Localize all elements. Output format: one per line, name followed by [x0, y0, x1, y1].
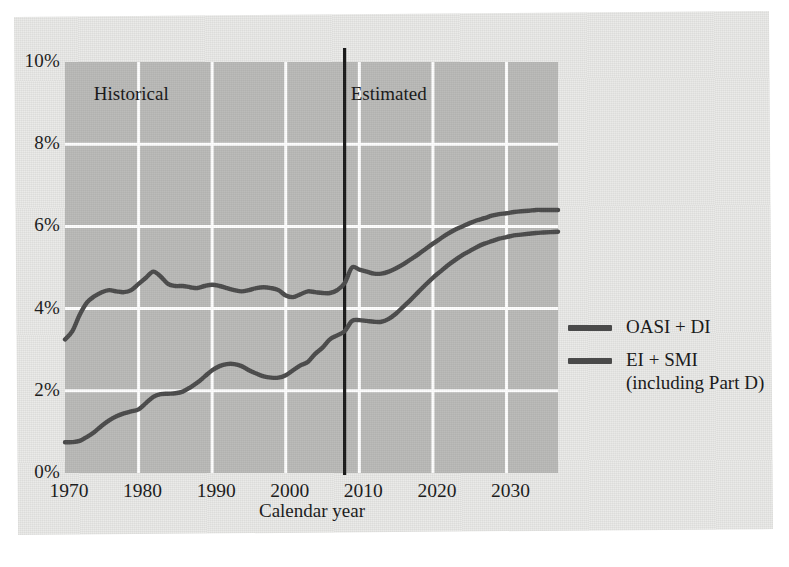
x-axis-tick-1990: 1990 — [197, 480, 236, 502]
legend-item-ei-smi: EI + SMI (including Part D) — [568, 349, 783, 394]
x-axis-tick-1970: 1970 — [50, 480, 89, 502]
x-axis-tick-2000: 2000 — [270, 480, 309, 502]
x-axis-tick-2030: 2030 — [491, 480, 530, 502]
legend-label-oasi-di: OASI + DI — [626, 316, 711, 338]
x-axis-tick-1980: 1980 — [123, 480, 162, 502]
legend-swatch-oasi-di — [568, 325, 612, 331]
figure-root: 0%2%4%6%8%10% 19701980199020002010202020… — [0, 0, 789, 567]
x-axis-tick-2020: 2020 — [417, 480, 456, 502]
legend-swatch-ei-smi — [568, 358, 612, 364]
legend-item-oasi-di: OASI + DI — [568, 316, 783, 338]
historical-region-label: Historical — [94, 83, 169, 105]
legend-label-oasi-di-text: OASI + DI — [626, 316, 711, 337]
legend-sublabel-ei-smi: (including Part D) — [626, 372, 764, 394]
plot-wrapper: 0%2%4%6%8%10% 19701980199020002010202020… — [0, 0, 789, 567]
chart-legend: OASI + DI EI + SMI (including Part D) — [568, 316, 783, 405]
legend-label-ei-smi: EI + SMI (including Part D) — [626, 349, 764, 394]
estimated-region-label: Estimated — [351, 83, 427, 105]
x-axis-title: Calendar year — [259, 500, 365, 522]
legend-label-ei-smi-text: EI + SMI — [626, 349, 698, 370]
x-axis-tick-2010: 2010 — [344, 480, 383, 502]
